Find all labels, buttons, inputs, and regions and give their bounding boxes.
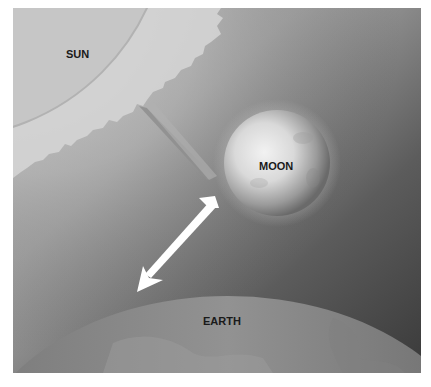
moon-label: MOON <box>259 160 293 172</box>
eclipse-illustration: SUN MOON EARTH <box>13 8 421 373</box>
sun-label: SUN <box>66 48 89 60</box>
earth-label: EARTH <box>203 315 241 327</box>
eclipse-diagram: SUN MOON EARTH <box>13 8 421 373</box>
